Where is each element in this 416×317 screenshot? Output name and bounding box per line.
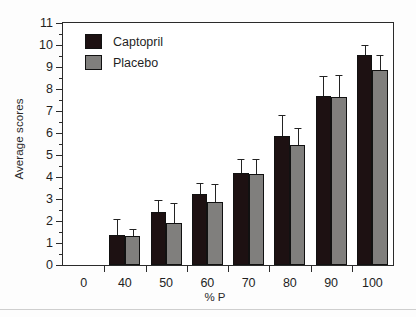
bar-captopril-100 bbox=[357, 55, 372, 265]
y-tick-3 bbox=[56, 199, 63, 200]
error-bar-captopril-60 bbox=[200, 183, 201, 194]
y-tick-label-5: 5 bbox=[46, 148, 53, 162]
error-bar-cap bbox=[155, 200, 162, 201]
y-tick-label-0: 0 bbox=[46, 258, 53, 272]
error-bar-captopril-40 bbox=[117, 219, 118, 236]
error-bar-placebo-50 bbox=[174, 203, 175, 223]
bar-placebo-90 bbox=[331, 97, 346, 265]
bar-chart-figure: Average scores 01234567891011 0405060708… bbox=[0, 0, 416, 317]
y-tick-label-2: 2 bbox=[46, 214, 53, 228]
x-tick bbox=[269, 265, 270, 272]
error-bar-placebo-100 bbox=[380, 55, 381, 70]
bar-placebo-70 bbox=[249, 174, 264, 265]
legend-swatch-captopril bbox=[85, 34, 102, 49]
y-tick-5 bbox=[56, 155, 63, 156]
x-tick bbox=[352, 265, 353, 272]
y-tick-minor bbox=[59, 232, 64, 233]
y-tick-minor bbox=[59, 56, 64, 57]
y-tick-label-9: 9 bbox=[46, 60, 53, 74]
y-tick-minor bbox=[59, 188, 64, 189]
x-tick-label-40: 40 bbox=[118, 276, 132, 290]
x-tick bbox=[187, 265, 188, 272]
chart-legend: Captopril Placebo bbox=[85, 31, 163, 73]
x-tick bbox=[104, 265, 105, 272]
y-tick-2 bbox=[56, 221, 63, 222]
bar-captopril-60 bbox=[192, 194, 207, 266]
y-tick-1 bbox=[56, 243, 63, 244]
error-bar-placebo-70 bbox=[256, 159, 257, 173]
error-bar-cap bbox=[212, 184, 219, 185]
y-tick-label-6: 6 bbox=[46, 126, 53, 140]
x-tick-label-90: 90 bbox=[324, 276, 338, 290]
error-bar-cap bbox=[170, 203, 177, 204]
bar-placebo-80 bbox=[290, 145, 305, 265]
y-tick-label-10: 10 bbox=[39, 38, 53, 52]
bar-captopril-50 bbox=[151, 212, 166, 265]
legend-label-captopril: Captopril bbox=[113, 35, 163, 49]
error-bar-cap bbox=[361, 45, 368, 46]
error-bar-placebo-40 bbox=[133, 229, 134, 237]
y-tick-minor bbox=[59, 254, 64, 255]
y-tick-label-8: 8 bbox=[46, 82, 53, 96]
y-tick-label-3: 3 bbox=[46, 192, 53, 206]
y-tick-9 bbox=[56, 67, 63, 68]
legend-label-placebo: Placebo bbox=[113, 56, 158, 70]
error-bar-cap bbox=[335, 75, 342, 76]
error-bar-cap bbox=[237, 159, 244, 160]
error-bar-captopril-70 bbox=[241, 159, 242, 172]
y-tick-minor bbox=[59, 122, 64, 123]
x-axis-title: % P bbox=[0, 291, 416, 303]
error-bar-placebo-90 bbox=[339, 75, 340, 97]
error-bar-cap bbox=[320, 76, 327, 77]
error-bar-placebo-80 bbox=[298, 128, 299, 146]
y-tick-minor bbox=[59, 210, 64, 211]
error-bar-cap bbox=[129, 229, 136, 230]
bar-placebo-60 bbox=[207, 202, 222, 265]
y-tick-6 bbox=[56, 133, 63, 134]
y-tick-11 bbox=[56, 23, 63, 24]
y-tick-minor bbox=[59, 144, 64, 145]
y-tick-minor bbox=[59, 78, 64, 79]
scan-artifact-line bbox=[0, 309, 416, 310]
y-tick-label-11: 11 bbox=[40, 16, 53, 30]
x-axis-title-text: % P bbox=[204, 291, 225, 303]
y-tick-0 bbox=[56, 265, 63, 266]
y-tick-label-4: 4 bbox=[46, 170, 53, 184]
y-tick-minor bbox=[59, 166, 64, 167]
x-tick bbox=[311, 265, 312, 272]
y-tick-7 bbox=[56, 111, 63, 112]
y-tick-label-7: 7 bbox=[46, 104, 53, 118]
bar-placebo-100 bbox=[372, 70, 387, 265]
y-axis-title: Average scores bbox=[13, 79, 25, 199]
error-bar-cap bbox=[114, 219, 121, 220]
bar-placebo-50 bbox=[166, 223, 181, 265]
error-bar-captopril-90 bbox=[323, 76, 324, 96]
y-tick-minor bbox=[59, 34, 64, 35]
x-tick bbox=[228, 265, 229, 272]
error-bar-cap bbox=[294, 128, 301, 129]
bar-captopril-80 bbox=[274, 136, 289, 265]
x-tick-label-80: 80 bbox=[283, 276, 297, 290]
error-bar-cap bbox=[196, 183, 203, 184]
bar-placebo-40 bbox=[125, 236, 140, 265]
x-tick-label-70: 70 bbox=[242, 276, 256, 290]
x-tick-label-0: 0 bbox=[80, 276, 87, 290]
legend-item-captopril: Captopril bbox=[85, 31, 163, 52]
x-tick-label-60: 60 bbox=[200, 276, 214, 290]
error-bar-captopril-80 bbox=[282, 115, 283, 136]
bar-captopril-90 bbox=[316, 96, 331, 265]
error-bar-cap bbox=[279, 115, 286, 116]
error-bar-captopril-100 bbox=[365, 45, 366, 55]
legend-swatch-placebo bbox=[85, 55, 102, 70]
bar-captopril-40 bbox=[109, 235, 124, 265]
error-bar-cap bbox=[253, 159, 260, 160]
y-tick-4 bbox=[56, 177, 63, 178]
y-tick-8 bbox=[56, 89, 63, 90]
x-tick bbox=[146, 265, 147, 272]
x-tick-label-50: 50 bbox=[159, 276, 173, 290]
x-tick-label-100: 100 bbox=[362, 276, 383, 290]
error-bar-captopril-50 bbox=[158, 200, 159, 212]
plot-area: 01234567891011 0405060708090100 Captopri… bbox=[62, 22, 394, 266]
error-bar-cap bbox=[377, 55, 384, 56]
legend-item-placebo: Placebo bbox=[85, 52, 163, 73]
